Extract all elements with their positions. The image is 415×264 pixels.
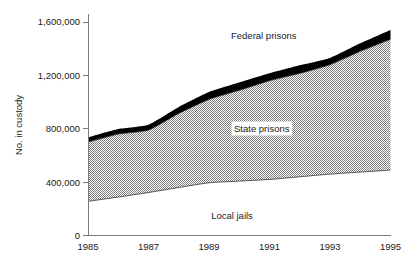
chart-canvas: 0400,000800,0001,200,0001,600,000 No. in… xyxy=(0,0,415,264)
state-prisons-band xyxy=(88,39,391,201)
y-tick-marks xyxy=(83,22,89,236)
y-tick-labels: 0400,000800,0001,200,0001,600,000 xyxy=(38,16,80,241)
y-tick-label: 1,200,000 xyxy=(38,70,80,81)
stacked-area-chart: 0400,000800,0001,200,0001,600,000 No. in… xyxy=(0,0,415,264)
plot-area xyxy=(88,30,391,201)
x-tick-label: 1987 xyxy=(138,241,159,252)
local-jails-label: Local jails xyxy=(211,210,253,221)
y-tick-label: 1,600,000 xyxy=(38,16,80,27)
state-prisons-label: State prisons xyxy=(234,123,290,134)
y-axis-title: No. in custody xyxy=(13,95,24,155)
y-tick-label: 400,000 xyxy=(46,177,80,188)
y-tick-label: 0 xyxy=(75,230,80,241)
x-tick-labels: 198519871989199119931995 xyxy=(77,241,401,252)
y-axis: 0400,000800,0001,200,0001,600,000 No. in… xyxy=(13,14,89,241)
x-tick-label: 1989 xyxy=(198,241,219,252)
x-tick-label: 1985 xyxy=(77,241,98,252)
y-tick-label: 800,000 xyxy=(46,123,80,134)
x-axis: 198519871989199119931995 xyxy=(77,236,401,253)
x-tick-label: 1993 xyxy=(319,241,340,252)
x-tick-label: 1991 xyxy=(259,241,280,252)
x-tick-label: 1995 xyxy=(380,241,401,252)
federal-prisons-label: Federal prisons xyxy=(231,30,297,41)
